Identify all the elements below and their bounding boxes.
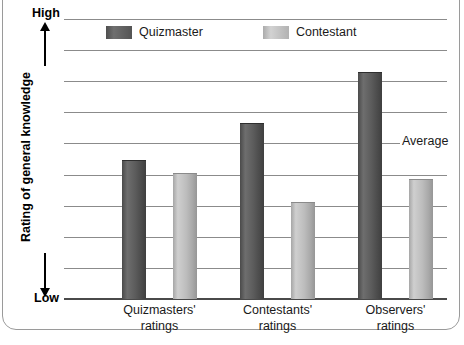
- legend-light-swatch-icon: [263, 26, 289, 39]
- legend-dark-swatch-icon: [106, 26, 132, 39]
- y-axis-title: Rating of general knowledge: [19, 67, 33, 247]
- plot-area: [64, 19, 447, 299]
- bar-contestant-1: [291, 202, 315, 299]
- legend-label-quizmaster: Quizmaster: [139, 25, 203, 39]
- x-axis-label-1: Contestants'ratings: [218, 303, 338, 334]
- y-axis-down-arrow-icon: [44, 253, 46, 289]
- legend-item-quizmaster: Quizmaster: [106, 25, 203, 39]
- bar-quizmaster-0: [122, 160, 146, 299]
- x-axis-label-0: Quizmasters'ratings: [100, 303, 220, 334]
- legend-item-contestant: Contestant: [263, 25, 356, 39]
- bar-quizmaster-1: [240, 123, 264, 299]
- y-axis-high-label: High: [32, 6, 60, 20]
- gridline: [64, 112, 447, 113]
- y-axis-up-arrow-icon: [44, 30, 46, 66]
- bar-quizmaster-2: [358, 72, 382, 299]
- legend-label-contestant: Contestant: [296, 25, 356, 39]
- gridline: [64, 81, 447, 82]
- gridline: [64, 50, 447, 51]
- x-axis-label-2: Observers'ratings: [336, 303, 456, 334]
- bar-contestant-0: [173, 173, 197, 299]
- gridline: [64, 19, 447, 20]
- chart-figure: High Low Rating of general knowledge Qui…: [0, 0, 464, 345]
- chart-legend: Quizmaster Contestant: [106, 25, 356, 39]
- bar-contestant-2: [409, 179, 433, 299]
- average-annotation-label: Average: [400, 134, 450, 148]
